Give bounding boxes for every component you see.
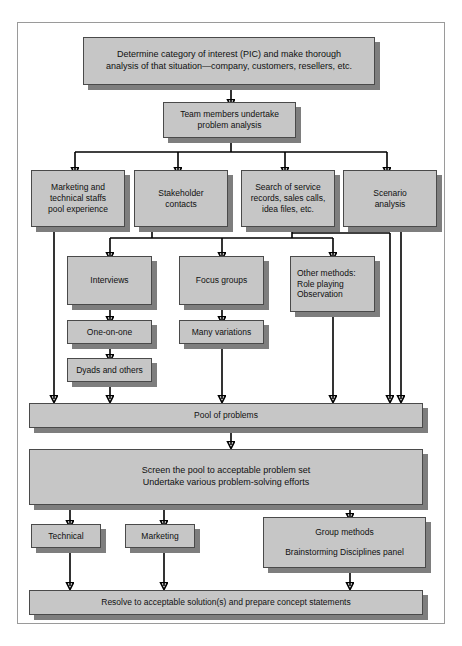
- node-other-methods[interactable]: Other methods: Role playing Observation: [290, 256, 375, 312]
- node-line: Undertake various problem-solving effort…: [143, 477, 309, 489]
- node-line: Scenario: [373, 188, 407, 199]
- node-line: Many variations: [192, 327, 252, 338]
- node-line: Team members undertake: [180, 109, 279, 120]
- node-line: Brainstorming Disciplines panel: [285, 547, 404, 558]
- node-line: Observation: [297, 289, 343, 300]
- node-focus-groups[interactable]: Focus groups: [179, 256, 264, 305]
- node-line: Resolve to acceptable solution(s) and pr…: [101, 597, 350, 608]
- node-line: Screen the pool to acceptable problem se…: [142, 465, 311, 477]
- node-many-variations[interactable]: Many variations: [179, 320, 264, 344]
- node-line: contacts: [165, 199, 197, 210]
- node-stakeholder-contacts[interactable]: Stakeholder contacts: [134, 170, 228, 227]
- node-team-members[interactable]: Team members undertake problem analysis: [163, 102, 296, 138]
- node-determine-category[interactable]: Determine category of interest (PIC) and…: [83, 37, 375, 85]
- node-line: problem analysis: [198, 120, 262, 131]
- node-line: Search of service: [255, 182, 321, 193]
- node-line: Interviews: [90, 275, 128, 286]
- node-technical[interactable]: Technical: [31, 524, 101, 548]
- node-line: One-on-one: [87, 327, 132, 338]
- node-dyads-and-others[interactable]: Dyads and others: [67, 358, 152, 382]
- node-line: Group methods: [315, 527, 374, 538]
- node-one-on-one[interactable]: One-on-one: [67, 320, 152, 344]
- node-scenario-analysis[interactable]: Scenario analysis: [343, 170, 437, 227]
- node-line: technical staffs: [50, 193, 106, 204]
- node-line: Other methods:: [297, 268, 356, 279]
- node-line: Marketing: [141, 531, 178, 542]
- node-line: pool experience: [48, 204, 108, 215]
- node-resolve-to-solution[interactable]: Resolve to acceptable solution(s) and pr…: [29, 590, 423, 615]
- node-line: Determine category of interest (PIC) and…: [117, 49, 341, 61]
- node-line: Pool of problems: [194, 410, 258, 421]
- node-line: Stakeholder: [158, 188, 203, 199]
- node-line: Role playing: [297, 279, 344, 290]
- node-search-service-records[interactable]: Search of service records, sales calls, …: [241, 170, 335, 227]
- node-group-methods[interactable]: Group methods Brainstorming Disciplines …: [263, 517, 426, 568]
- node-line: Focus groups: [196, 275, 248, 286]
- node-line: analysis: [375, 199, 406, 210]
- node-line: analysis of that situation—company, cust…: [106, 61, 352, 73]
- node-line: Dyads and others: [76, 365, 143, 376]
- node-marketing-technical-staffs[interactable]: Marketing and technical staffs pool expe…: [31, 170, 125, 227]
- node-line: Marketing and: [51, 182, 105, 193]
- node-pool-of-problems[interactable]: Pool of problems: [29, 403, 423, 428]
- node-line: idea files, etc.: [262, 204, 314, 215]
- node-marketing[interactable]: Marketing: [125, 524, 195, 548]
- node-line: Technical: [48, 531, 83, 542]
- node-line: records, sales calls,: [251, 193, 326, 204]
- diagram-page: Determine category of interest (PIC) and…: [0, 0, 462, 646]
- node-interviews[interactable]: Interviews: [67, 256, 152, 305]
- node-screen-the-pool[interactable]: Screen the pool to acceptable problem se…: [29, 449, 423, 505]
